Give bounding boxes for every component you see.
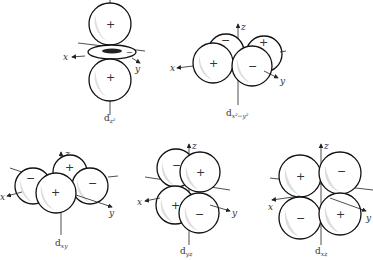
- phase-sign: +: [336, 208, 345, 221]
- d-orbitals-diagram: x y + + − dz² z x y − + + − dx²−y² z: [0, 0, 373, 260]
- x-axis: [177, 66, 193, 68]
- phase-sign: +: [196, 166, 205, 179]
- orbital-dx2-y2: z x y − + + − dx²−y²: [170, 22, 286, 120]
- phase-sign: −: [296, 212, 305, 225]
- phase-sign: −: [88, 177, 97, 190]
- x-axis-label: x: [268, 202, 273, 212]
- x-axis-label: x: [137, 197, 142, 207]
- phase-sign: +: [296, 170, 305, 183]
- orbital-caption: dxy: [55, 238, 68, 250]
- phase-sign: +: [106, 71, 115, 84]
- orbital-caption: dx²−y²: [226, 108, 249, 120]
- y-axis-label: y: [365, 213, 372, 223]
- y-axis-label: y: [279, 76, 286, 86]
- orbital-dz2: x y + + − dz²: [63, 0, 145, 124]
- phase-sign: −: [172, 159, 181, 172]
- axis-line: [108, 176, 118, 177]
- y-axis: [132, 58, 140, 63]
- phase-sign: −: [195, 208, 204, 221]
- x-axis-label: x: [63, 52, 68, 62]
- phase-sign: +: [51, 186, 60, 199]
- x-axis-label: x: [170, 63, 175, 73]
- y-axis-label: y: [108, 208, 115, 218]
- z-axis-label: z: [323, 141, 329, 151]
- phase-sign: +: [209, 57, 218, 70]
- orbital-dxy: z x y − + + − dxy: [0, 149, 118, 250]
- phase-sign: −: [337, 165, 346, 178]
- x-axis: [72, 56, 85, 57]
- phase-sign: −: [248, 60, 257, 73]
- phase-sign: +: [171, 199, 180, 212]
- phase-sign: −: [221, 34, 230, 47]
- torus-hole: [102, 49, 122, 54]
- orbital-caption: dyz: [180, 246, 193, 258]
- axis-line: [10, 168, 22, 172]
- phase-sign: +: [106, 18, 115, 31]
- orbital-dyz: z x y − + + − dyz: [137, 141, 238, 258]
- phase-sign: +: [65, 161, 74, 174]
- phase-sign: −: [126, 48, 133, 57]
- y-axis-label: y: [231, 208, 238, 218]
- z-axis-label: z: [240, 22, 246, 32]
- y-axis-label: y: [134, 64, 141, 74]
- phase-sign: −: [26, 172, 35, 185]
- phase-sign: +: [259, 36, 268, 49]
- orbital-caption: dxz: [315, 246, 328, 257]
- x-axis-label: x: [0, 192, 5, 202]
- z-axis-label: z: [191, 141, 197, 151]
- orbital-dxz: z x y + − − + dxz: [268, 141, 373, 257]
